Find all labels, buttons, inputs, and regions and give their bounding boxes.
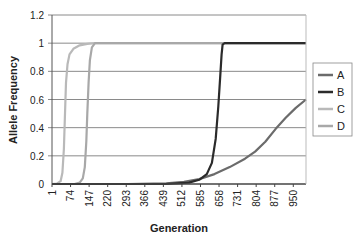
- x-axis-ticks: 174147220293366439512585658731804877950: [47, 184, 299, 207]
- y-tick-label: 0.4: [30, 123, 44, 134]
- x-tick-label: 293: [121, 190, 132, 207]
- legend: ABCD: [313, 63, 352, 136]
- y-tick-label: 0.2: [30, 151, 44, 162]
- x-tick-label: 366: [139, 190, 150, 207]
- plot-series: [52, 43, 306, 184]
- y-tick-label: 0.8: [30, 66, 44, 77]
- y-tick-label: 0.6: [30, 95, 44, 106]
- series-line-a: [52, 100, 306, 185]
- y-tick-label: 1.2: [30, 10, 44, 21]
- y-tick-label: 0: [38, 179, 44, 190]
- x-tick-label: 877: [269, 190, 280, 207]
- x-tick-label: 804: [251, 190, 262, 207]
- y-axis-ticks: 00.20.40.60.811.2: [30, 10, 44, 190]
- x-tick-label: 74: [65, 190, 76, 202]
- y-tick-label: 1: [38, 38, 44, 49]
- legend-label-d: D: [337, 120, 345, 132]
- x-tick-label: 658: [214, 190, 225, 207]
- x-tick-label: 220: [102, 190, 113, 207]
- allele-frequency-chart: 00.20.40.60.811.2 1741472202933664395125…: [0, 0, 359, 238]
- x-tick-label: 585: [195, 190, 206, 207]
- x-tick-label: 950: [288, 190, 299, 207]
- x-tick-label: 439: [158, 190, 169, 207]
- x-tick-label: 1: [47, 190, 58, 196]
- y-axis-title: Allele Frequency: [7, 55, 19, 144]
- x-axis-title: Generation: [150, 222, 208, 234]
- legend-label-a: A: [337, 69, 345, 81]
- legend-label-b: B: [337, 86, 344, 98]
- legend-label-c: C: [337, 103, 345, 115]
- x-tick-label: 731: [232, 190, 243, 207]
- x-tick-label: 512: [176, 190, 187, 207]
- series-line-d: [52, 43, 306, 184]
- x-tick-label: 147: [84, 190, 95, 207]
